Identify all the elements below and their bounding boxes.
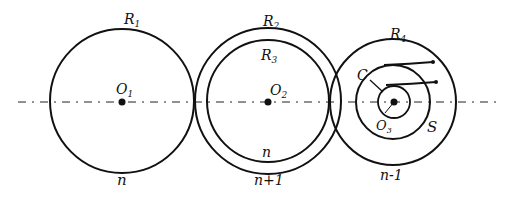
diagram: O1 R1 n O2 R2 R3 n n+1 C S O3 R4 n-1 — [0, 0, 509, 198]
label-s: S — [427, 118, 437, 136]
label-c: C — [357, 67, 368, 83]
gear-1: O1 R1 n — [50, 11, 194, 189]
label-n-plus-1: n+1 — [254, 172, 284, 188]
label-o1: O1 — [116, 81, 133, 99]
label-r4: R4 — [389, 26, 407, 44]
label-o2: O2 — [270, 82, 287, 100]
label-o3: O3 — [376, 118, 392, 135]
lever-outer — [384, 62, 433, 65]
radius-o3 — [385, 102, 394, 113]
gear-3: C S O3 R4 n-1 — [330, 26, 456, 183]
label-n-minus-1: n-1 — [380, 167, 403, 183]
gear-2: O2 R2 R3 n n+1 — [195, 13, 341, 188]
lever-inner-end — [434, 80, 438, 84]
lever-outer-end — [431, 60, 435, 64]
center-point-o2 — [265, 99, 272, 106]
label-r3: R3 — [260, 47, 278, 65]
center-point-o1 — [119, 99, 126, 106]
label-inner-n: n — [262, 144, 271, 160]
gear-diagram-svg: O1 R1 n O2 R2 R3 n n+1 C S O3 R4 n-1 — [0, 0, 509, 198]
lever-inner — [386, 82, 436, 85]
label-n: n — [117, 171, 127, 189]
label-r1: R1 — [123, 11, 140, 29]
label-r2: R2 — [262, 13, 280, 31]
radius-c — [370, 80, 383, 92]
